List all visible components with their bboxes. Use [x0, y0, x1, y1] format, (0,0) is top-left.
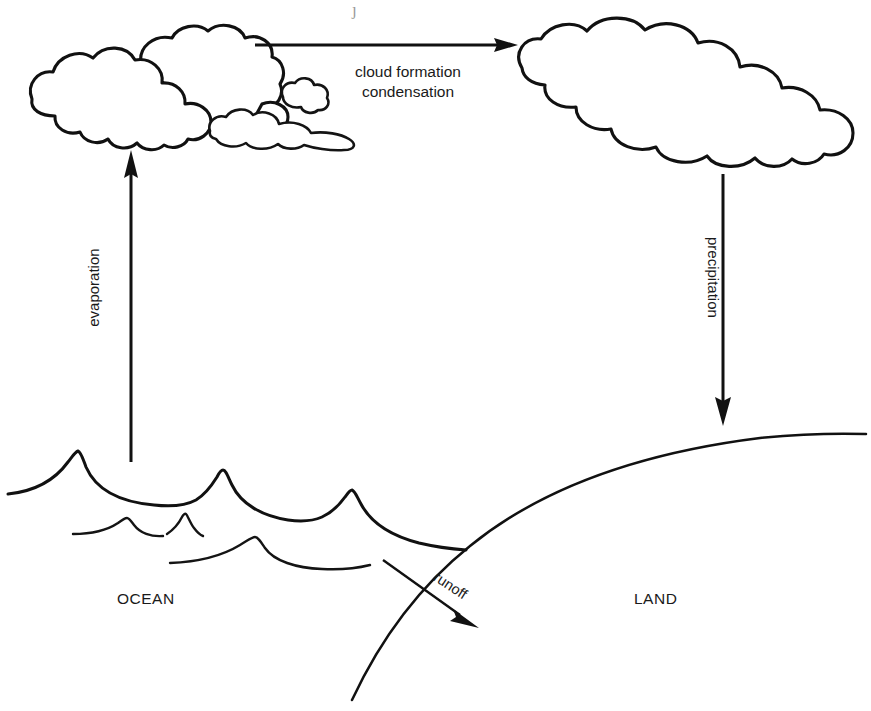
wave-middle [73, 518, 163, 536]
wave-lower [170, 537, 370, 569]
arrow-evaporation [124, 150, 138, 462]
wave-middle-crest [167, 514, 203, 536]
label-land: LAND [634, 589, 677, 609]
label-cloud-formation-line2: condensation [355, 82, 461, 102]
label-evaporation: evaporation [84, 248, 104, 326]
cloud-right [519, 18, 853, 166]
ocean-waves [8, 451, 466, 569]
land-coastline [352, 434, 866, 700]
cloud-small-puff [282, 78, 329, 113]
label-precipitation: precipitation [703, 237, 723, 318]
arrow-cloud-formation [255, 38, 518, 52]
label-ocean: OCEAN [117, 589, 175, 609]
land-curve [352, 434, 866, 700]
scan-artifact-mark: ȷ [352, 0, 366, 14]
label-cloud-formation-line1: cloud formation [355, 62, 461, 82]
water-cycle-diagram: cloud formation condensation evaporation… [0, 0, 871, 711]
cloud-right-shape [519, 18, 853, 166]
label-cloud-formation: cloud formation condensation [355, 62, 461, 103]
